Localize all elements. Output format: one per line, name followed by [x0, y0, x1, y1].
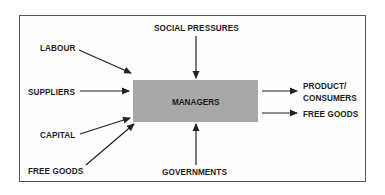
consumers-label: CONSUMERS: [303, 92, 357, 103]
capital-arrow: [80, 118, 130, 134]
free-goods-input-label: FREE GOODS: [28, 165, 83, 176]
governments-label: GOVERNMENTS: [162, 166, 227, 177]
capital-label: CAPITAL: [40, 129, 75, 140]
labour-arrow: [79, 50, 131, 73]
managers-label: MANAGERS: [172, 96, 220, 107]
social-pressures-label: SOCIAL PRESSURES: [154, 22, 239, 33]
product-label: PRODUCT/: [303, 80, 346, 91]
suppliers-label: SUPPLIERS: [28, 86, 75, 97]
managers-box: MANAGERS: [133, 80, 258, 122]
labour-label: LABOUR: [40, 42, 75, 53]
free-goods-output-label: FREE GOODS: [303, 108, 358, 119]
